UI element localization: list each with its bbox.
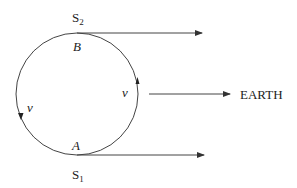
- velocity-arrow-left-icon: [18, 113, 24, 120]
- label-v-left: v: [27, 100, 33, 115]
- label-earth: EARTH: [240, 87, 283, 102]
- label-s1: S1: [72, 167, 84, 184]
- label-s2: S2: [72, 10, 84, 27]
- label-a: A: [71, 138, 80, 153]
- orbit-diagram: S2 B v v A S1 EARTH: [0, 0, 297, 188]
- label-b: B: [73, 39, 81, 54]
- label-v-right: v: [122, 85, 128, 100]
